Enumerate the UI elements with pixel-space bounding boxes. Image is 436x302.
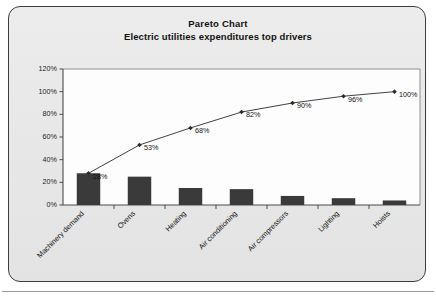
plot-background: [63, 69, 420, 205]
bar: [230, 189, 253, 205]
y-axis-tick-label: 120%: [39, 64, 58, 73]
bar: [128, 177, 151, 205]
x-axis-category-label: Machinery demand: [35, 209, 86, 260]
data-point-label: 100%: [399, 90, 418, 99]
x-axis-ticks: [114, 205, 369, 209]
bar: [332, 198, 355, 205]
x-axis-category-label: Air compressors: [246, 209, 290, 253]
data-point-label: 28%: [93, 172, 108, 181]
y-axis-tick-label: 80%: [43, 109, 58, 118]
data-point-label: 53%: [144, 143, 159, 152]
y-axis-tick-label: 60%: [43, 132, 58, 141]
x-axis-category-label: Ovens: [115, 209, 137, 231]
pareto-chart: 0%20%40%60%80%100%120% 28%53%68%82%90%96…: [9, 7, 426, 282]
screenshot-root: Pareto Chart Electric utilities expendit…: [0, 0, 436, 302]
data-point-label: 82%: [246, 110, 261, 119]
bar: [383, 200, 406, 205]
y-axis-tick-label: 40%: [43, 155, 58, 164]
x-axis-category-labels: Machinery demandOvensHeatingAir conditio…: [35, 209, 392, 260]
bar: [281, 196, 304, 205]
footer-divider: [2, 291, 434, 292]
x-axis-category-label: Hoists: [371, 209, 392, 230]
data-point-label: 90%: [297, 101, 312, 110]
x-axis-category-label: Air conditioning: [197, 209, 239, 251]
chart-canvas: 0%20%40%60%80%100%120% 28%53%68%82%90%96…: [9, 7, 426, 282]
data-point-label: 96%: [348, 95, 363, 104]
y-axis-tick-label: 20%: [43, 177, 58, 186]
bar: [179, 188, 202, 205]
y-axis-tick-label: 100%: [39, 87, 58, 96]
y-axis-tick-label: 0%: [47, 200, 58, 209]
x-axis-category-label: Lighting: [316, 209, 341, 234]
chart-card: Pareto Chart Electric utilities expendit…: [8, 6, 426, 282]
data-point-label: 68%: [195, 126, 210, 135]
x-axis-category-label: Heating: [164, 209, 188, 233]
